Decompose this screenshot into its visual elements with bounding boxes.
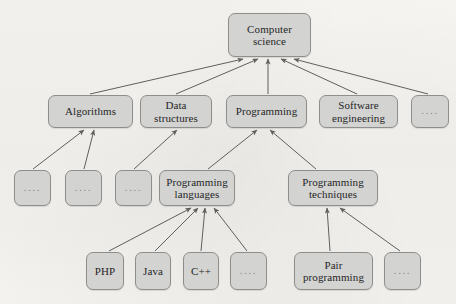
edge-software-engineering-to-computer-science	[281, 59, 357, 94]
node-languages-more[interactable]: ....	[230, 252, 267, 290]
edge-php-to-programming-languages	[109, 208, 191, 251]
node-label-php: PHP	[92, 265, 118, 278]
node-label-java: Java	[140, 265, 166, 278]
edge-java-to-programming-languages	[155, 208, 198, 251]
node-pair-programming[interactable]: Pair programming	[294, 252, 373, 290]
node-label-algorithms-more-2: ....	[72, 181, 95, 194]
node-data-structures-more[interactable]: ....	[115, 170, 152, 206]
node-label-data-structures-more: ....	[122, 181, 145, 194]
node-techniques-more[interactable]: ....	[384, 252, 421, 290]
edge-cs-more-to-computer-science	[294, 59, 428, 94]
edge-algorithms-to-computer-science	[90, 59, 243, 94]
edge-group	[33, 59, 428, 251]
edge-algorithms-more-1-to-algorithms	[33, 130, 84, 169]
node-label-algorithms: Algorithms	[62, 105, 119, 118]
edge-languages-more-to-programming-languages	[214, 208, 247, 251]
edge-programming-languages-to-programming	[208, 130, 257, 169]
edge-data-structures-more-to-data-structures	[134, 130, 177, 169]
node-label-computer-science: Computer science	[244, 23, 295, 48]
node-cpp[interactable]: C++	[183, 252, 219, 290]
edge-pair-programming-to-programming-techniques	[327, 208, 330, 251]
node-label-cpp: C++	[188, 265, 214, 278]
node-label-cs-more: ....	[418, 104, 441, 117]
node-java[interactable]: Java	[135, 252, 171, 290]
node-label-pair-programming: Pair programming	[300, 259, 367, 284]
node-programming-techniques[interactable]: Programming techniques	[288, 170, 378, 206]
node-label-data-structures: Data structures	[151, 99, 201, 124]
edge-programming-techniques-to-programming	[270, 130, 316, 169]
node-data-structures[interactable]: Data structures	[140, 95, 212, 128]
node-programming[interactable]: Programming	[226, 95, 307, 128]
node-label-programming: Programming	[233, 105, 301, 118]
node-label-algorithms-more-1: ....	[21, 181, 44, 194]
node-algorithms[interactable]: Algorithms	[48, 95, 133, 128]
node-label-programming-languages: Programming languages	[163, 176, 231, 201]
node-label-programming-techniques: Programming techniques	[299, 176, 367, 201]
node-computer-science[interactable]: Computer science	[228, 13, 311, 57]
hierarchy-diagram: Computer scienceAlgorithmsData structure…	[0, 0, 456, 304]
edge-data-structures-to-computer-science	[176, 59, 258, 94]
node-software-engineering[interactable]: Software engineering	[319, 95, 398, 128]
edge-techniques-more-to-programming-techniques	[340, 208, 400, 251]
edge-algorithms-more-2-to-algorithms	[84, 130, 94, 169]
node-algorithms-more-2[interactable]: ....	[65, 170, 102, 206]
node-label-techniques-more: ....	[391, 264, 414, 277]
node-php[interactable]: PHP	[86, 252, 124, 290]
edge-cpp-to-programming-languages	[201, 208, 205, 251]
node-algorithms-more-1[interactable]: ....	[14, 170, 51, 206]
node-label-software-engineering: Software engineering	[329, 99, 388, 124]
node-label-languages-more: ....	[237, 264, 260, 277]
node-cs-more[interactable]: ....	[411, 95, 449, 128]
node-programming-languages[interactable]: Programming languages	[159, 170, 235, 206]
